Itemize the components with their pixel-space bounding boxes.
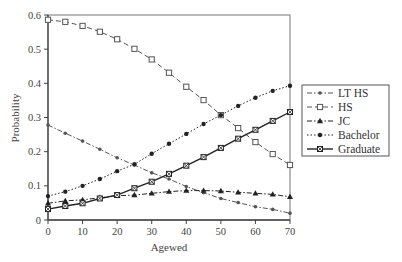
marker-circle-icon — [318, 91, 322, 95]
x-tick-label: 40 — [181, 226, 192, 237]
legend-label: HS — [338, 101, 353, 113]
legend-label: JC — [338, 115, 350, 127]
marker-dot-icon — [98, 177, 102, 181]
marker-dot-icon — [115, 169, 119, 173]
marker-square-icon — [201, 97, 206, 102]
marker-circle-icon — [98, 147, 102, 151]
x-axis: 010203040506070 — [45, 220, 295, 237]
y-tick-label: 0 — [36, 215, 41, 226]
marker-circle-icon — [271, 208, 275, 212]
x-tick-label: 50 — [216, 226, 227, 237]
x-tick-label: 10 — [77, 226, 88, 237]
marker-square-icon — [270, 151, 275, 156]
series-graduate — [46, 110, 293, 212]
marker-dot-icon — [318, 133, 322, 137]
marker-dot-icon — [236, 104, 240, 108]
marker-circle-icon — [254, 205, 258, 209]
marker-square-icon — [97, 29, 102, 34]
marker-square-icon — [115, 37, 120, 42]
marker-square-icon — [80, 23, 85, 28]
marker-triangle-icon — [131, 192, 137, 197]
marker-dot-icon — [46, 194, 50, 198]
marker-square-icon — [132, 46, 137, 51]
x-tick-label: 0 — [45, 226, 50, 237]
marker-circle-icon — [167, 177, 171, 181]
y-tick-label: 0.1 — [28, 180, 41, 191]
legend-label: Graduate — [338, 143, 380, 155]
series-layer — [45, 17, 293, 215]
y-tick-label: 0.4 — [28, 78, 42, 89]
marker-triangle-icon — [62, 198, 68, 203]
line-chart: 010203040506070 00.10.20.30.40.50.6 Agew… — [0, 0, 402, 262]
x-tick-label: 70 — [285, 226, 296, 237]
marker-square-icon — [63, 19, 68, 24]
marker-circle-icon — [150, 171, 154, 175]
marker-triangle-icon — [252, 190, 258, 195]
marker-dot-icon — [253, 95, 257, 99]
marker-square-icon — [149, 57, 154, 62]
marker-dot-icon — [80, 184, 84, 188]
marker-square-icon — [236, 125, 241, 130]
legend: LT HSHSJCBachelorGraduate — [302, 85, 389, 156]
marker-dot-icon — [288, 84, 292, 88]
marker-triangle-icon — [287, 194, 293, 199]
x-axis-label: Agewed — [151, 241, 188, 253]
marker-square-icon — [184, 84, 189, 89]
marker-circle-icon — [219, 197, 223, 201]
marker-circle-icon — [63, 131, 67, 135]
marker-dot-icon — [167, 142, 171, 146]
marker-circle-icon — [46, 123, 50, 127]
marker-circle-icon — [236, 201, 240, 205]
marker-dot-icon — [219, 113, 223, 117]
marker-circle-icon — [81, 139, 85, 143]
marker-circle-icon — [288, 211, 292, 215]
marker-square-icon — [287, 162, 292, 167]
x-tick-label: 20 — [112, 226, 123, 237]
legend-label: Bachelor — [338, 129, 380, 141]
marker-square-icon — [317, 104, 322, 109]
y-tick-label: 0.5 — [28, 44, 41, 55]
y-tick-label: 0.2 — [28, 146, 41, 157]
x-tick-label: 60 — [250, 226, 261, 237]
x-tick-label: 30 — [146, 226, 157, 237]
marker-square-icon — [166, 70, 171, 75]
marker-triangle-icon — [235, 189, 241, 194]
marker-dot-icon — [63, 189, 67, 193]
marker-dot-icon — [201, 122, 205, 126]
marker-circle-icon — [115, 156, 119, 160]
legend-label: LT HS — [338, 87, 368, 99]
marker-square-icon — [45, 17, 50, 22]
marker-dot-icon — [150, 152, 154, 156]
marker-dot-icon — [271, 89, 275, 93]
marker-dot-icon — [132, 162, 136, 166]
y-tick-label: 0.6 — [28, 10, 41, 21]
marker-square-icon — [253, 140, 258, 145]
marker-dot-icon — [184, 132, 188, 136]
y-tick-label: 0.3 — [28, 112, 41, 123]
y-axis-label: Probability — [9, 93, 21, 142]
y-axis: 00.10.20.30.40.50.6 — [28, 10, 48, 226]
